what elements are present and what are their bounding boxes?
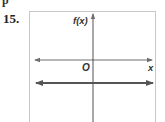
origin-label: O	[82, 62, 90, 73]
problem-page: p 15. f(x) O x	[0, 0, 165, 122]
coordinate-graph: f(x) O x	[0, 0, 165, 122]
x-axis-label: x	[147, 62, 154, 73]
y-axis-label: f(x)	[73, 15, 88, 26]
